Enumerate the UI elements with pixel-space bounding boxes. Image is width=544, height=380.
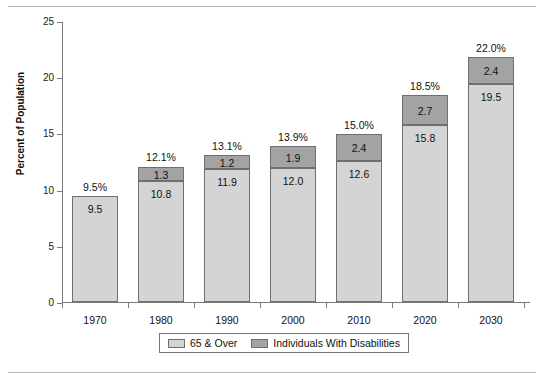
x-axis-label-1990: 1990 [197, 314, 257, 326]
legend-swatch-icon-individuals-with-disabilities [251, 339, 268, 348]
bar-value-label-65-over-2030: 19.5 [469, 91, 513, 103]
y-tick-label-25: 25 [43, 16, 54, 27]
bar-segment-disabilities-2000[interactable]: 1.9 [270, 146, 316, 167]
y-tick-mark-10 [57, 191, 62, 192]
x-tick-mark-4 [326, 303, 327, 308]
y-axis-line [62, 22, 63, 303]
bar-value-label-disabilities-2010: 2.4 [337, 142, 381, 154]
bar-1990[interactable]: 1.211.913.1% [204, 155, 250, 302]
y-tick-mark-25 [57, 22, 62, 23]
bar-value-label-disabilities-2030: 2.4 [469, 65, 513, 77]
bar-total-label-2030: 22.0% [460, 42, 522, 54]
bar-2000[interactable]: 1.912.013.9% [270, 146, 316, 302]
y-tick-label-15: 15 [43, 128, 54, 139]
x-tick-mark-7 [524, 303, 525, 308]
bar-value-label-65-over-2020: 15.8 [403, 132, 447, 144]
x-axis-label-2010: 2010 [329, 314, 389, 326]
chart-legend: 65 & Over Individuals With Disabilities [159, 333, 409, 353]
bar-value-label-disabilities-1990: 1.2 [205, 157, 249, 169]
legend-label-65-and-over: 65 & Over [190, 337, 237, 349]
y-tick-label-10: 10 [43, 185, 54, 196]
x-tick-mark-3 [260, 303, 261, 308]
bar-value-label-65-over-1970: 9.5 [73, 203, 117, 215]
bar-total-label-1990: 13.1% [196, 140, 258, 152]
y-tick-label-0: 0 [48, 297, 54, 308]
bar-segment-65-over-1980[interactable]: 10.8 [138, 181, 184, 302]
y-tick-mark-20 [57, 78, 62, 79]
bar-segment-disabilities-1990[interactable]: 1.2 [204, 155, 250, 168]
bar-value-label-disabilities-2020: 2.7 [403, 105, 447, 117]
bar-total-label-2020: 18.5% [394, 80, 456, 92]
bar-total-label-1970: 9.5% [64, 181, 126, 193]
legend-label-individuals-with-disabilities: Individuals With Disabilities [273, 337, 400, 349]
bar-segment-disabilities-2020[interactable]: 2.7 [402, 95, 448, 125]
x-axis-label-2020: 2020 [395, 314, 455, 326]
bar-segment-65-over-2020[interactable]: 15.8 [402, 125, 448, 302]
bar-value-label-65-over-2000: 12.0 [271, 175, 315, 187]
bar-2030[interactable]: 2.419.522.0% [468, 57, 514, 302]
bar-segment-65-over-1990[interactable]: 11.9 [204, 169, 250, 302]
bar-total-label-1980: 12.1% [130, 151, 192, 163]
bar-segment-disabilities-2010[interactable]: 2.4 [336, 134, 382, 161]
y-tick-label-20: 20 [43, 72, 54, 83]
plot-area: 0 5 10 15 20 25 9.59.5% 1.310.812.1% 1.2… [62, 22, 530, 303]
legend-item-individuals-with-disabilities[interactable]: Individuals With Disabilities [251, 337, 400, 349]
x-tick-mark-5 [392, 303, 393, 308]
bar-1970[interactable]: 9.59.5% [72, 196, 118, 302]
bar-segment-65-over-2000[interactable]: 12.0 [270, 168, 316, 302]
top-divider-rule [8, 6, 536, 7]
legend-item-65-and-over[interactable]: 65 & Over [168, 337, 237, 349]
bar-value-label-disabilities-2000: 1.9 [271, 152, 315, 164]
bottom-divider-rule [8, 372, 536, 373]
bar-segment-disabilities-1980[interactable]: 1.3 [138, 167, 184, 182]
bar-segment-65-over-1970[interactable]: 9.5 [72, 196, 118, 302]
bar-value-label-65-over-2010: 12.6 [337, 168, 381, 180]
x-axis-label-2030: 2030 [461, 314, 521, 326]
x-tick-mark-0 [62, 303, 63, 308]
bar-2010[interactable]: 2.412.615.0% [336, 134, 382, 302]
y-tick-mark-15 [57, 134, 62, 135]
bar-segment-disabilities-2030[interactable]: 2.4 [468, 57, 514, 84]
bar-1980[interactable]: 1.310.812.1% [138, 167, 184, 303]
bar-value-label-65-over-1980: 10.8 [139, 188, 183, 200]
x-axis-label-1970: 1970 [65, 314, 125, 326]
bar-segment-65-over-2030[interactable]: 19.5 [468, 84, 514, 302]
y-tick-mark-5 [57, 247, 62, 248]
x-tick-mark-6 [458, 303, 459, 308]
x-axis-label-2000: 2000 [263, 314, 323, 326]
x-axis-label-1980: 1980 [131, 314, 191, 326]
bar-value-label-65-over-1990: 11.9 [205, 176, 249, 188]
x-tick-mark-2 [194, 303, 195, 308]
bar-2020[interactable]: 2.715.818.5% [402, 95, 448, 302]
x-tick-mark-1 [128, 303, 129, 308]
y-tick-label-5: 5 [48, 241, 54, 252]
chart-page: Percent of Population 0 5 10 15 20 25 9.… [0, 0, 544, 380]
y-axis-tick-labels: 0 5 10 15 20 25 [20, 22, 54, 303]
legend-swatch-icon-65-and-over [168, 339, 185, 348]
bar-value-label-disabilities-1980: 1.3 [139, 169, 183, 181]
x-axis-line [62, 302, 530, 303]
bar-total-label-2000: 13.9% [262, 131, 324, 143]
bar-segment-65-over-2010[interactable]: 12.6 [336, 161, 382, 302]
bar-total-label-2010: 15.0% [328, 119, 390, 131]
